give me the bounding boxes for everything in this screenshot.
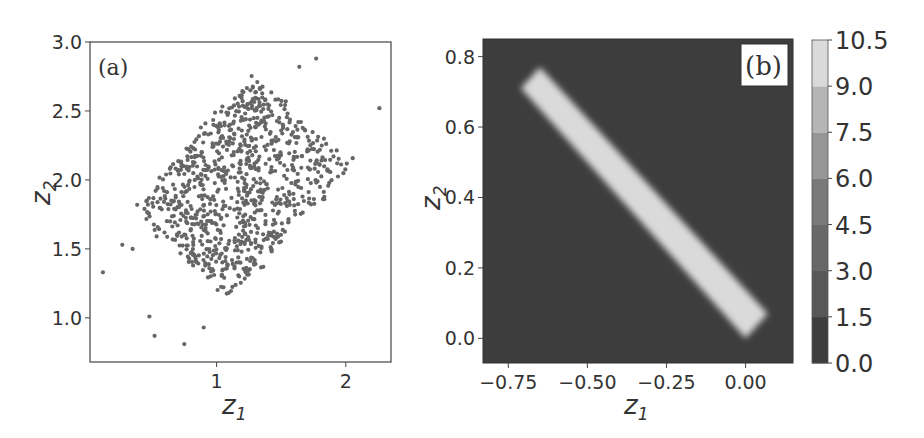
scatter-point xyxy=(339,162,343,166)
scatter-point xyxy=(248,88,252,92)
scatter-point xyxy=(239,119,243,123)
scatter-point xyxy=(256,97,260,101)
scatter-point xyxy=(179,211,183,215)
scatter-point xyxy=(209,257,213,261)
scatter-point xyxy=(284,99,288,103)
scatter-point xyxy=(229,196,233,200)
scatter-point xyxy=(300,195,304,199)
y-tick-label: 1.0 xyxy=(52,307,82,329)
scatter-point xyxy=(253,90,257,94)
scatter-point xyxy=(282,193,286,197)
scatter-point xyxy=(171,237,175,241)
scatter-point xyxy=(337,157,341,161)
scatter-point xyxy=(208,250,212,254)
scatter-point xyxy=(214,203,218,207)
scatter-point xyxy=(256,158,260,162)
y-tick-label: 0.6 xyxy=(445,116,475,138)
scatter-point xyxy=(190,234,194,238)
scatter-point xyxy=(185,247,189,251)
scatter-point xyxy=(287,120,291,124)
scatter-point xyxy=(235,200,239,204)
scatter-point xyxy=(219,216,223,220)
scatter-point xyxy=(290,163,294,167)
scatter-point xyxy=(193,178,197,182)
scatter-point xyxy=(299,186,303,190)
scatter-point xyxy=(193,155,197,159)
scatter-point xyxy=(240,176,244,180)
y-tick-label: 0.0 xyxy=(445,327,475,349)
scatter-point xyxy=(155,200,159,204)
scatter-point xyxy=(220,168,224,172)
scatter-point xyxy=(239,149,243,153)
scatter-point xyxy=(234,225,238,229)
scatter-point xyxy=(258,177,262,181)
scatter-point xyxy=(258,201,262,205)
scatter-point xyxy=(232,132,236,136)
scatter-point xyxy=(262,238,266,242)
scatter-point xyxy=(259,208,263,212)
scatter-point xyxy=(311,130,315,134)
scatter-point xyxy=(282,163,286,167)
scatter-point xyxy=(267,114,271,118)
scatter-point xyxy=(244,117,248,121)
scatter-point xyxy=(233,238,237,242)
panel-a-label: (a) xyxy=(98,55,128,80)
scatter-point xyxy=(275,232,279,236)
scatter-point xyxy=(250,74,254,78)
scatter-point xyxy=(236,180,240,184)
scatter-point xyxy=(273,203,277,207)
scatter-point xyxy=(292,203,296,207)
scatter-point xyxy=(211,118,215,122)
scatter-point xyxy=(220,207,224,211)
scatter-point xyxy=(153,228,157,232)
scatter-point xyxy=(287,151,291,155)
scatter-point xyxy=(235,207,239,211)
scatter-point xyxy=(316,170,320,174)
scatter-point xyxy=(243,270,247,274)
x-tick-label: −0.50 xyxy=(558,371,616,393)
scatter-point xyxy=(261,265,265,269)
scatter-point xyxy=(282,107,286,111)
scatter-point xyxy=(252,162,256,166)
scatter-point xyxy=(309,202,313,206)
scatter-point xyxy=(288,139,292,143)
scatter-point xyxy=(293,213,297,217)
scatter-point xyxy=(198,207,202,211)
scatter-point xyxy=(218,121,222,125)
scatter-point xyxy=(243,181,247,185)
scatter-point xyxy=(270,113,274,117)
scatter-point xyxy=(276,97,280,101)
scatter-point xyxy=(213,181,217,185)
scatter-point xyxy=(154,189,158,193)
scatter-point xyxy=(201,187,205,191)
scatter-point xyxy=(312,197,316,201)
scatter-point xyxy=(202,159,206,163)
scatter-point xyxy=(181,194,185,198)
scatter-point xyxy=(213,111,217,115)
scatter-point xyxy=(200,243,204,247)
scatter-point xyxy=(323,158,327,162)
scatter-point xyxy=(241,104,245,108)
scatter-point xyxy=(222,223,226,227)
scatter-point xyxy=(191,263,195,267)
scatter-point xyxy=(322,137,326,141)
scatter-point xyxy=(186,243,190,247)
scatter-point xyxy=(187,260,191,264)
scatter-point xyxy=(307,190,311,194)
panel-a-xlabel: z1 xyxy=(221,390,246,424)
scatter-point xyxy=(176,169,180,173)
scatter-point xyxy=(315,139,319,143)
scatter-point xyxy=(212,198,216,202)
scatter-point xyxy=(202,325,206,329)
scatter-point xyxy=(168,171,172,175)
scatter-point xyxy=(232,137,236,141)
scatter-point xyxy=(211,141,215,145)
colorbar-level xyxy=(812,317,828,364)
scatter-point xyxy=(254,167,258,171)
colorbar-level xyxy=(812,178,828,225)
scatter-point xyxy=(271,223,275,227)
scatter-point xyxy=(120,243,124,247)
scatter-point xyxy=(235,244,239,248)
scatter-point xyxy=(227,106,231,110)
panel-a-ylabel: z2 xyxy=(26,181,60,206)
